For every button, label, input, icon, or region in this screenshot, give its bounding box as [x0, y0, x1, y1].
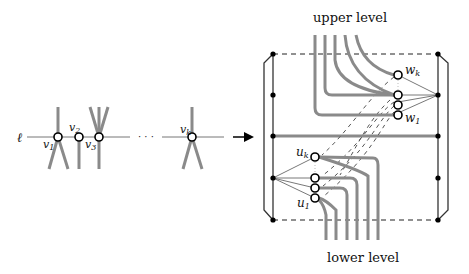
- arrow-head-icon: [244, 132, 254, 142]
- vertex-v3: [95, 133, 103, 141]
- lower-level-label: lower level: [327, 250, 399, 265]
- node-uk: [311, 153, 319, 161]
- label-v1: v1: [43, 138, 54, 152]
- transform-arrow: [233, 132, 254, 142]
- node-u: [311, 174, 319, 182]
- right-fan: [398, 75, 438, 113]
- label-uk: uk: [296, 145, 309, 160]
- label-w1: w1: [405, 111, 420, 126]
- label-v2: v2: [69, 121, 80, 135]
- node-u1: [311, 194, 319, 202]
- vertex-v1: [54, 133, 62, 141]
- upper-level-edges: [315, 35, 394, 115]
- left-fan: [273, 157, 315, 198]
- node-u: [311, 184, 319, 192]
- line-label: ℓ: [17, 130, 23, 145]
- label-wk: wk: [405, 63, 420, 78]
- label-vk: vk: [180, 123, 191, 137]
- right-gadget: upper level lower level wk w1 uk u1: [264, 10, 448, 265]
- diagram-canvas: ℓ v1 v2 v3 vk · · ·: [0, 0, 469, 274]
- node-wk: [394, 71, 402, 79]
- lower-level-edges: [319, 157, 378, 240]
- upper-level-label: upper level: [313, 10, 387, 25]
- label-v3: v3: [85, 138, 96, 152]
- node-w1: [394, 111, 402, 119]
- node-w: [394, 101, 402, 109]
- ellipsis: · · ·: [138, 131, 154, 142]
- node-w: [394, 91, 402, 99]
- label-u1: u1: [297, 196, 310, 211]
- left-graph: ℓ v1 v2 v3 vk · · ·: [17, 107, 224, 169]
